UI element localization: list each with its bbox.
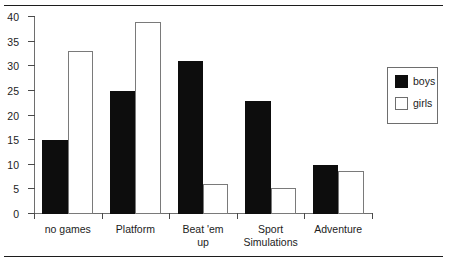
y-tick-label: 35 <box>7 36 19 47</box>
y-tick: 35 <box>28 41 35 42</box>
y-tick: 30 <box>28 65 35 66</box>
bar-chart-figure: 0510152025303540 no gamesPlatformBeat 'e… <box>0 0 449 263</box>
x-tick <box>372 213 373 219</box>
category-label: Platform <box>116 223 155 236</box>
category-label: Beat 'em up <box>182 223 223 249</box>
y-tick-label: 30 <box>7 61 19 72</box>
bottom-horizontal-rule <box>4 256 443 257</box>
y-axis <box>34 17 35 214</box>
chart-legend: boys girls <box>387 67 438 124</box>
bar-boys-0 <box>42 140 67 214</box>
bar-boys-1 <box>110 91 135 214</box>
y-tick-label: 40 <box>7 12 19 23</box>
x-tick <box>237 213 238 219</box>
y-tick: 10 <box>28 164 35 165</box>
y-tick: 15 <box>28 139 35 140</box>
bar-girls-1 <box>135 22 160 214</box>
y-tick-label: 15 <box>7 135 19 146</box>
y-tick: 25 <box>28 90 35 91</box>
bar-boys-3 <box>245 101 270 214</box>
legend-item-girls: girls <box>395 97 437 110</box>
bar-boys-2 <box>178 61 203 214</box>
y-tick-label: 25 <box>7 86 19 97</box>
y-tick: 40 <box>28 16 35 17</box>
legend-label-boys: boys <box>413 76 435 87</box>
bar-girls-4 <box>338 171 363 214</box>
bar-girls-0 <box>68 51 93 214</box>
legend-item-boys: boys <box>395 75 437 88</box>
y-tick-label: 10 <box>7 160 19 171</box>
category-label: Adventure <box>314 223 362 236</box>
plot-area: 0510152025303540 no gamesPlatformBeat 'e… <box>34 17 372 214</box>
x-tick <box>304 213 305 219</box>
top-horizontal-rule <box>4 5 443 6</box>
legend-label-girls: girls <box>413 98 432 109</box>
bar-girls-3 <box>271 188 296 214</box>
x-tick <box>169 213 170 219</box>
y-tick: 5 <box>28 188 35 189</box>
x-tick <box>34 213 35 219</box>
bar-girls-2 <box>203 184 228 214</box>
legend-swatch-boys <box>395 75 408 88</box>
bar-boys-4 <box>313 165 338 214</box>
category-label: Sport Simulations <box>243 223 297 249</box>
y-tick-label: 0 <box>13 209 19 220</box>
y-tick: 20 <box>28 115 35 116</box>
legend-swatch-girls <box>395 97 408 110</box>
y-tick-label: 5 <box>13 184 19 195</box>
y-tick-label: 20 <box>7 110 19 121</box>
category-label: no games <box>45 223 91 236</box>
x-tick <box>102 213 103 219</box>
